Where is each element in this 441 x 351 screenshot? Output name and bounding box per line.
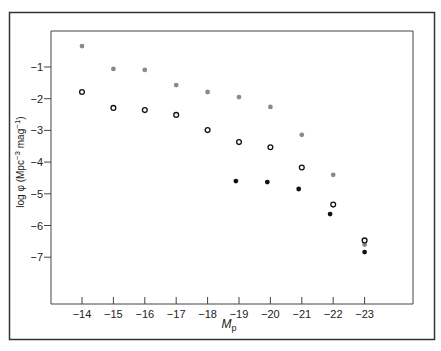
data-point	[328, 212, 333, 217]
series-black-filled	[234, 179, 368, 255]
data-point	[362, 250, 367, 255]
y-tick-label: −3	[30, 124, 43, 136]
data-point	[142, 108, 147, 113]
x-tick-label: −18	[198, 308, 217, 320]
series-open-circle	[80, 90, 367, 243]
y-axis-label: log φ (Mpc−3 mag−1)	[13, 116, 26, 207]
x-tick-label: −19	[230, 308, 249, 320]
chart: −1−2−3−4−5−6−7 −14−15−16−17−18−19−20−21−…	[0, 0, 441, 351]
x-tick-label: −17	[167, 308, 186, 320]
data-point	[234, 179, 239, 184]
x-tick-label: −14	[73, 308, 92, 320]
data-point	[237, 140, 242, 145]
data-point	[174, 113, 179, 118]
data-point	[80, 44, 85, 49]
y-tick-label: −7	[30, 251, 43, 263]
x-tick-label: −22	[324, 308, 343, 320]
data-point	[174, 83, 179, 88]
y-axis-ticks: −1−2−3−4−5−6−7	[30, 61, 51, 263]
y-tick-label: −6	[30, 220, 43, 232]
y-tick-label: −2	[30, 93, 43, 105]
data-point	[205, 90, 210, 95]
data-point	[265, 180, 270, 185]
data-point	[299, 165, 304, 170]
data-point	[111, 67, 116, 72]
series-grey-filled	[80, 44, 367, 247]
y-tick-label: −4	[30, 156, 43, 168]
plot-box	[51, 31, 413, 304]
data-point	[299, 132, 304, 137]
data-point	[331, 202, 336, 207]
y-tick-label: −5	[30, 188, 43, 200]
data-point	[142, 68, 147, 73]
x-tick-label: −20	[261, 308, 280, 320]
data-point	[80, 90, 85, 95]
data-points	[80, 44, 367, 255]
data-point	[362, 238, 367, 243]
x-tick-label: −15	[104, 308, 123, 320]
x-tick-label: −23	[355, 308, 374, 320]
data-point	[331, 172, 336, 177]
data-point	[296, 187, 301, 192]
data-point	[268, 105, 273, 110]
data-point	[237, 95, 242, 100]
plot-area: −1−2−3−4−5−6−7 −14−15−16−17−18−19−20−21−…	[30, 31, 413, 320]
data-point	[111, 106, 116, 111]
data-point	[205, 128, 210, 133]
x-tick-label: −21	[292, 308, 311, 320]
x-tick-label: −16	[135, 308, 154, 320]
data-point	[268, 145, 273, 150]
y-tick-label: −1	[30, 61, 43, 73]
outer-frame	[10, 13, 435, 340]
